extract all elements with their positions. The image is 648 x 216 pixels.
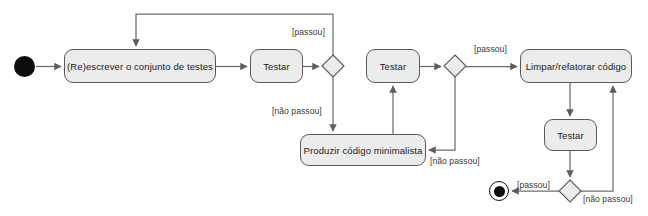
edge-label-nao-passou-mid: [não passou] [430,156,480,166]
activity-rewrite-tests[interactable]: (Re)escrever o conjunto de testes [64,49,216,83]
activity-test-3-label: Testar [557,130,583,141]
activity-minimal-code-label: Produzir código minimalista [304,145,423,156]
edge-label-nao-passou-bottom: [não passou] [583,194,633,204]
decision-diamond-2 [444,55,466,77]
activity-diagram-canvas: (Re)escrever o conjunto de testes Testar… [0,0,648,216]
activity-test-1-label: Testar [263,61,289,72]
activity-refactor-code[interactable]: Limpar/refatorar código [520,49,632,83]
edge-label-nao-passou-left: [não passou] [272,106,322,116]
decision-diamond-1 [322,55,344,77]
activity-test-3[interactable]: Testar [544,119,597,151]
edge-decision2-nao-passou [429,77,455,150]
activity-test-2[interactable]: Testar [366,49,420,83]
final-node [489,181,509,201]
activity-test-2-label: Testar [380,61,406,72]
edge-label-passou-right: [passou] [474,44,507,54]
activity-test-1[interactable]: Testar [250,49,303,83]
initial-node [14,56,35,77]
edge-label-passou-bottom: [passou] [517,180,550,190]
activity-rewrite-tests-label: (Re)escrever o conjunto de testes [67,61,213,72]
final-node-core [494,186,505,197]
activity-refactor-code-label: Limpar/refatorar código [526,61,627,72]
decision-diamond-3 [559,180,581,202]
activity-minimal-code[interactable]: Produzir código minimalista [300,134,426,166]
edge-label-passou-top: [passou] [292,27,325,37]
